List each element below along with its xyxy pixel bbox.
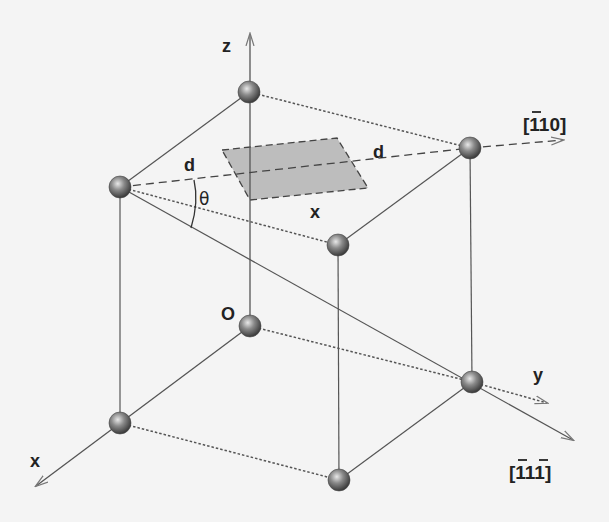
- crystal-lattice-diagram: z O x y d d x θ [110] [111]: [0, 0, 609, 522]
- atom-top-front: [327, 234, 349, 256]
- y-axis: [472, 382, 547, 403]
- theta-label: θ: [199, 189, 209, 209]
- x-axis: [36, 326, 250, 486]
- shaded-plane: [222, 138, 368, 200]
- y-axis-label: y: [533, 365, 543, 385]
- direction-111-label: [111]: [509, 460, 551, 483]
- d-right-label: d: [373, 142, 384, 162]
- x-plane-label: x: [310, 202, 320, 222]
- atom-bottom-left: [109, 412, 131, 434]
- direction-110-label: [110]: [523, 112, 566, 135]
- direction-111-text: [111]: [509, 462, 551, 483]
- atom-top-left: [109, 176, 131, 198]
- d-left-label: d: [184, 155, 195, 175]
- direction-110-text: [110]: [523, 114, 566, 135]
- x-axis-label: x: [30, 451, 40, 471]
- atom-origin: [239, 315, 261, 337]
- theta-arc: [191, 180, 196, 228]
- origin-label: O: [221, 304, 235, 324]
- atom-bottom-right: [461, 371, 483, 393]
- atom-bottom-front: [328, 469, 350, 491]
- direction-111-line: [120, 187, 573, 440]
- z-axis-label: z: [222, 36, 231, 56]
- atom-top-right: [459, 137, 481, 159]
- atom-top-back: [238, 81, 260, 103]
